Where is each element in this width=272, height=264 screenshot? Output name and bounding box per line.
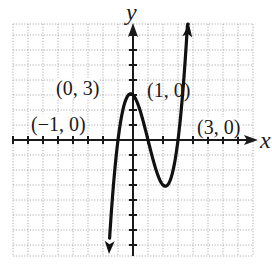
point-label-root-3: (3, 0) — [196, 117, 241, 137]
cubic-curve — [110, 24, 189, 238]
x-axis-label: x — [260, 128, 271, 152]
point-label-root-neg1: (−1, 0) — [30, 114, 87, 134]
point-label-root-1: (1, 0) — [146, 80, 191, 100]
point-label-local-max: (0, 3) — [55, 78, 100, 98]
axes — [13, 23, 258, 256]
y-axis-label: y — [126, 0, 137, 24]
curve-arrow-down-icon — [105, 241, 115, 254]
